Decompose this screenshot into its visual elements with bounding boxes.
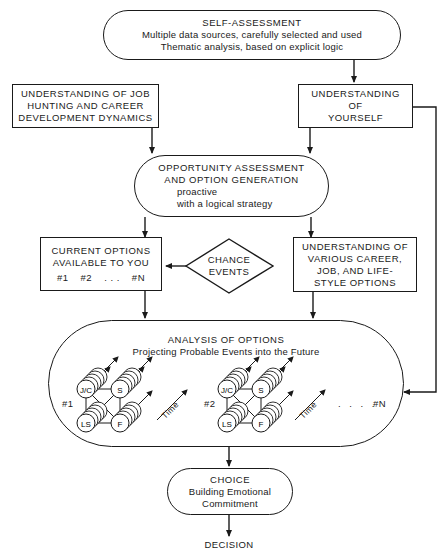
- choice-title: CHOICE: [210, 474, 250, 486]
- analysis-option-2-label: #2: [204, 398, 215, 409]
- choice-line-1: Building Emotional: [189, 486, 271, 498]
- svg-text:F: F: [259, 420, 264, 429]
- option-1-cluster: J/C S LS F: [77, 357, 152, 432]
- choice-line-2: Commitment: [202, 498, 258, 510]
- analysis-option-n-label: #N: [373, 398, 386, 409]
- analysis-ellipsis: . . . .: [338, 398, 377, 409]
- svg-text:J/C: J/C: [221, 386, 233, 395]
- svg-text:S: S: [258, 386, 263, 395]
- svg-text:F: F: [118, 420, 123, 429]
- decision-label: DECISION: [189, 539, 269, 550]
- svg-text:LS: LS: [81, 420, 91, 429]
- svg-text:LS: LS: [222, 420, 232, 429]
- svg-text:S: S: [117, 386, 122, 395]
- svg-text:J/C: J/C: [80, 386, 92, 395]
- option-2-cluster: J/C S LS F: [218, 357, 293, 432]
- analysis-option-1-label: #1: [62, 398, 73, 409]
- choice-node: CHOICE Building Emotional Commitment: [167, 468, 293, 515]
